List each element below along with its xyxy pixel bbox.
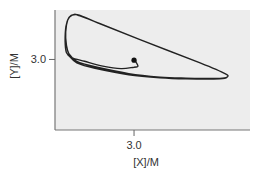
plot-area	[55, 10, 250, 130]
x-axis-label: [X]/M	[133, 156, 159, 168]
y-tick-label: 3.0	[31, 53, 46, 65]
start-point-marker	[131, 58, 136, 63]
y-axis-label: [Y]/M	[8, 53, 20, 79]
x-tick-label: 3.0	[126, 139, 141, 151]
phase-plot: 3.03.0 [X]/M [Y]/M	[0, 0, 260, 175]
